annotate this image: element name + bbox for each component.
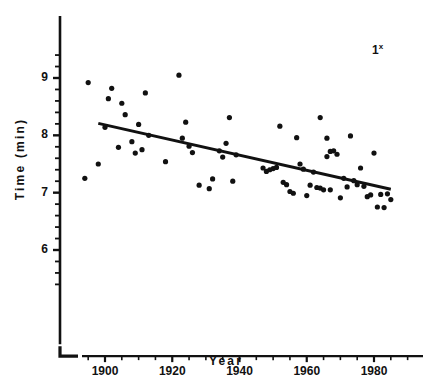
regression-line [98,123,391,189]
y-tick-label: 7 [28,185,48,199]
data-point [284,182,289,187]
data-point [351,178,356,183]
data-point [324,136,329,141]
data-point [102,125,107,130]
axes-group [60,16,423,356]
data-point [210,176,215,181]
data-point [348,133,353,138]
data-point [321,187,326,192]
data-point [334,152,339,157]
data-point [180,136,185,141]
axis-elbow [60,346,78,356]
data-point [291,191,296,196]
figure-panel: Time (min) Year 678919001920194019601980… [0,0,429,382]
data-point [371,151,376,156]
data-point [338,195,343,200]
x-tick-label: 1960 [284,364,330,378]
data-point [378,192,383,197]
data-point [186,144,191,149]
panel-annotation: 1x [372,42,383,57]
data-point [119,101,124,106]
data-point [146,133,151,138]
data-point [368,192,373,197]
x-tick-label: 1980 [351,364,397,378]
data-point [227,115,232,120]
data-point [274,165,279,170]
y-tick-label: 6 [28,242,48,256]
caption-edge-fragment [6,374,226,380]
data-point [223,141,228,146]
data-point [220,155,225,160]
y-axis-label: Time (min) [13,111,27,207]
data-point [297,161,302,166]
data-point [385,191,390,196]
data-point [355,182,360,187]
data-point [183,120,188,125]
data-point [116,145,121,150]
data-point [86,80,91,85]
data-point [361,184,366,189]
y-tick-label: 9 [28,70,48,84]
data-point [388,197,393,202]
data-point [109,86,114,91]
data-point [133,151,138,156]
data-point [129,139,134,144]
data-point [294,135,299,140]
data-point [311,169,316,174]
data-point [328,187,333,192]
data-point [139,147,144,152]
scatter-plot-svg [0,0,429,382]
data-point [234,152,239,157]
data-point [341,176,346,181]
data-point [197,183,202,188]
data-point [230,179,235,184]
panel-annotation-number: 1 [372,43,379,57]
regression-line-segment [98,123,391,189]
data-point [106,96,111,101]
data-point [381,205,386,210]
data-point [163,159,168,164]
data-point [318,115,323,120]
data-point [345,184,350,189]
data-point [123,112,128,117]
data-point [277,124,282,129]
data-point [207,186,212,191]
data-points-group [82,73,393,211]
data-point [375,204,380,209]
data-point [176,73,181,78]
data-point [190,150,195,155]
data-point [82,176,87,181]
data-point [301,167,306,172]
data-point [96,161,101,166]
data-point [217,148,222,153]
data-point [324,154,329,159]
data-point [308,183,313,188]
y-tick-label: 8 [28,127,48,141]
data-point [304,193,309,198]
data-point [136,122,141,127]
axis-ticks-group [53,55,408,362]
data-point [143,90,148,95]
data-point [358,165,363,170]
panel-annotation-superscript: x [379,42,383,51]
